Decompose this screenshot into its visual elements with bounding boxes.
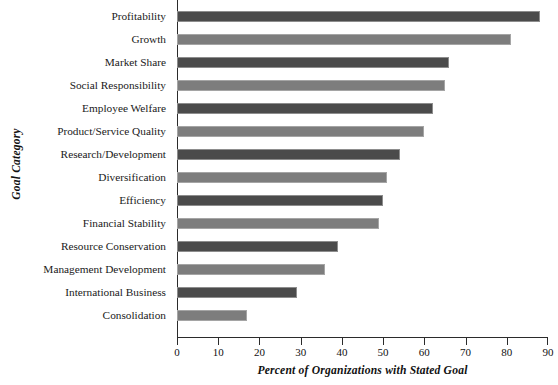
x-axis-tick [177,338,178,345]
x-axis-tick-label: 60 [409,346,439,358]
bar [177,195,383,206]
bar [177,34,511,45]
category-label: International Business [16,287,166,298]
x-axis-tick [424,338,425,345]
bar [177,310,247,321]
bar [177,218,379,229]
bar [177,287,297,298]
x-axis-tick-label: 40 [327,346,357,358]
category-label: Employee Welfare [16,103,166,114]
category-label: Efficiency [16,195,166,206]
plot-area [177,0,548,337]
bar [177,103,433,114]
bar [177,11,540,22]
category-label: Product/Service Quality [16,126,166,137]
x-axis-ticks [177,338,548,346]
category-label: Profitability [16,11,166,22]
category-label: Consolidation [16,310,166,321]
x-axis-tick [466,338,467,345]
category-label: Resource Conservation [16,241,166,252]
category-label: Management Development [16,264,166,275]
x-axis-tick-label: 80 [492,346,522,358]
category-axis-labels: ProfitabilityGrowthMarket ShareSocial Re… [22,0,172,337]
x-axis-tick [547,338,548,345]
x-axis-tick-label: 30 [286,346,316,358]
category-label: Market Share [16,57,166,68]
x-axis-tick-label: 20 [244,346,274,358]
bar [177,149,400,160]
x-axis-tick-label: 90 [533,346,558,358]
x-axis-tick-label: 10 [203,346,233,358]
category-label: Financial Stability [16,218,166,229]
x-axis-tick [342,338,343,345]
x-axis-tick-label: 70 [451,346,481,358]
category-label: Social Responsibility [16,80,166,91]
y-axis-title: Goal Category [10,104,22,224]
category-label: Growth [16,34,166,45]
bar [177,264,325,275]
bar [177,80,445,91]
x-axis-tick [259,338,260,345]
x-axis-title: Percent of Organizations with Stated Goa… [177,364,548,377]
bar [177,126,424,137]
category-label: Research/Development [16,149,166,160]
x-axis-tick [301,338,302,345]
x-axis-tick [507,338,508,345]
x-axis-tick [383,338,384,345]
bar [177,241,338,252]
bar-chart: Goal Category ProfitabilityGrowthMarket … [0,0,558,385]
category-label: Diversification [16,172,166,183]
x-axis-tick-label: 0 [162,346,192,358]
bar [177,57,449,68]
x-axis-tick-label: 50 [368,346,398,358]
x-axis-tick [218,338,219,345]
x-axis-tick-labels: 0102030405060708090 [177,346,548,360]
bar [177,172,387,183]
